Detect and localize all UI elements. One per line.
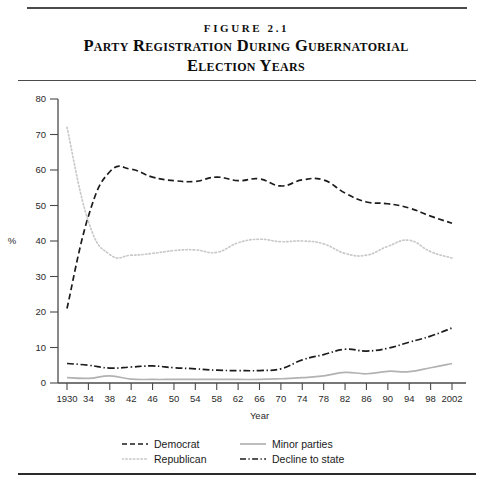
x-axis-tick-label: 78 [318,393,329,404]
legend-label-minor-parties: Minor parties [272,438,333,450]
x-axis-tick-label: 1930 [56,393,77,404]
x-axis-tick-label: 70 [276,393,287,404]
bottom-divider-rule [18,473,476,475]
chart-plot-area: 01020304050607080%1930343842465054586266… [0,86,493,476]
x-axis-tick-label: 34 [83,393,94,404]
dash-dot-line-icon [240,454,266,464]
dashed-line-icon [122,439,148,449]
figure-title: Party Registration During Gubernatorial … [46,36,446,76]
solid-line-icon [240,439,266,449]
line-chart: 01020304050607080%1930343842465054586266… [0,86,493,426]
legend-item-republican: Republican [122,451,240,466]
x-axis-tick-label: 62 [233,393,244,404]
figure-title-line-1: Party Registration During Gubernatorial [46,36,446,56]
x-axis-tick-label: 50 [169,393,180,404]
x-axis-tick-label: 38 [104,393,115,404]
x-axis-tick-label: 82 [340,393,351,404]
legend-label-republican: Republican [154,453,207,465]
figure-number-label: FIGURE 2.1 [0,22,493,34]
legend-item-democrat: Democrat [122,436,240,451]
figure-container: FIGURE 2.1 Party Registration During Gub… [0,0,493,489]
legend-label-democrat: Democrat [154,438,200,450]
series-line-decline-to-state [67,328,452,371]
x-axis-title: Year [250,410,269,421]
legend-item-decline-to-state: Decline to state [240,451,402,466]
y-axis-tick-label: 50 [35,200,46,211]
y-axis-tick-label: 30 [35,271,46,282]
x-axis-tick-label: 86 [361,393,372,404]
x-axis-tick-label: 54 [190,393,201,404]
legend-item-minor-parties: Minor parties [240,436,402,451]
x-axis-tick-label: 2002 [441,393,462,404]
x-axis-tick-label: 90 [383,393,394,404]
x-axis-tick-label: 66 [254,393,265,404]
x-axis-tick-label: 58 [211,393,222,404]
x-axis-tick-label: 94 [404,393,415,404]
dotted-line-icon [122,454,148,464]
y-axis-tick-label: 40 [35,235,46,246]
top-divider-rule [27,7,467,9]
x-axis-tick-label: 98 [425,393,436,404]
series-line-republican [67,127,452,258]
x-axis-tick-label: 74 [297,393,308,404]
chart-legend: Democrat Minor parties Republican Declin… [122,436,402,466]
series-line-democrat [67,166,452,308]
title-divider-rule [18,80,476,81]
y-axis-title: % [8,235,17,246]
figure-title-line-2: Election Years [46,56,446,76]
x-axis-tick-label: 46 [147,393,158,404]
y-axis-tick-label: 0 [41,377,46,388]
y-axis-tick-label: 70 [35,129,46,140]
y-axis-tick-label: 10 [35,342,46,353]
x-axis-tick-label: 42 [126,393,137,404]
legend-label-decline-to-state: Decline to state [272,453,344,465]
y-axis-tick-label: 80 [35,93,46,104]
series-line-minor-parties [67,363,452,379]
y-axis-tick-label: 60 [35,164,46,175]
y-axis-tick-label: 20 [35,306,46,317]
